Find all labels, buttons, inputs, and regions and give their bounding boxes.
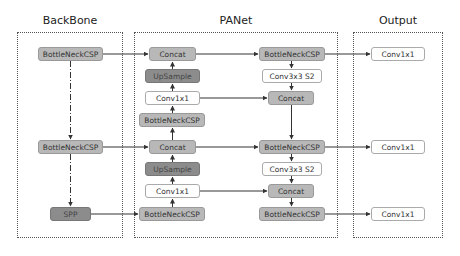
panet-right-bottleneckcsp-3: BottleNeckCSP (259, 207, 325, 221)
panet-right-concat-1: Concat (268, 91, 314, 105)
panet-left-concat-2: Concat (149, 140, 196, 154)
panet-right-bottleneckcsp-2: BottleNeckCSP (259, 140, 325, 154)
panet-left-bottleneckcsp-2: BottleNeckCSP (139, 207, 205, 221)
backbone-bottleneckcsp-1: BottleNeckCSP (38, 47, 103, 61)
output-conv1x1-1: Conv1x1 (371, 47, 425, 61)
backbone-spp: SPP (50, 207, 91, 221)
panet-right-conv3x3-s2-2: Conv3x3 S2 (262, 162, 322, 176)
panet-left-concat-1: Concat (149, 47, 196, 61)
panet-right-bottleneckcsp-1: BottleNeckCSP (259, 47, 325, 61)
panet-left-upsample-1: UpSample (145, 69, 200, 83)
panet-right-concat-2: Concat (268, 184, 314, 198)
output-conv1x1-3: Conv1x1 (371, 207, 425, 221)
panet-left-upsample-2: UpSample (145, 162, 200, 176)
panet-left-conv1x1-2: Conv1x1 (145, 184, 200, 198)
panet-left-bottleneckcsp-1: BottleNeckCSP (139, 113, 205, 127)
panet-right-conv3x3-s2-1: Conv3x3 S2 (262, 69, 322, 83)
output-conv1x1-2: Conv1x1 (371, 140, 425, 154)
panet-left-conv1x1-1: Conv1x1 (145, 91, 200, 105)
backbone-bottleneckcsp-2: BottleNeckCSP (38, 140, 103, 154)
